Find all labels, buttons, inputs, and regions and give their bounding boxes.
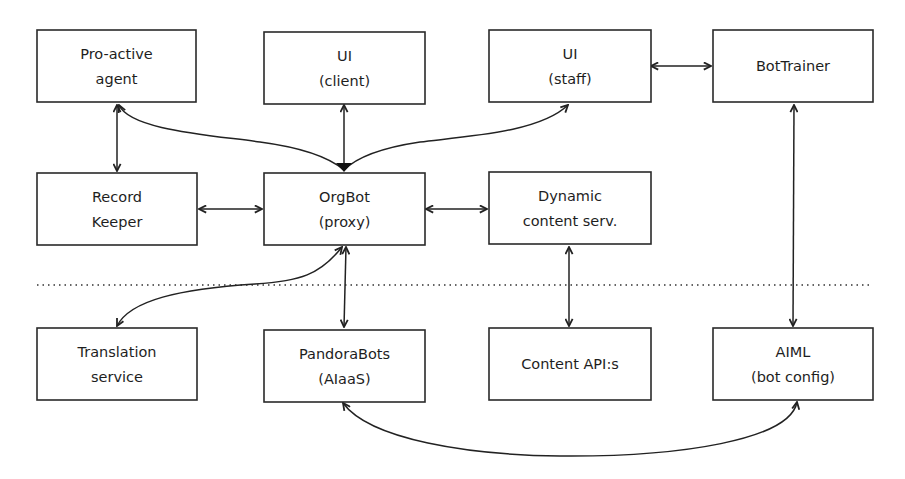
node-label: content serv. [523,213,618,229]
node-label: Keeper [92,214,143,230]
node-aiml: AIML(bot config) [713,328,873,400]
edge-proactive-orgbot [119,105,344,170]
node-label: Translation [76,344,156,360]
node-label: BotTrainer [756,58,830,74]
orgbot-top-junction-arrowhead [336,163,352,172]
architecture-diagram: Pro-activeagentUI(client)UI(staff)BotTra… [0,0,905,479]
node-box [713,328,873,400]
node-ui-staff: UI(staff) [489,30,651,102]
node-label: UI [563,46,578,62]
node-box [264,32,425,104]
node-label: Content API:s [521,356,619,372]
node-label: Dynamic [538,188,602,204]
node-orgbot: OrgBot(proxy) [264,173,425,245]
node-label: (staff) [548,71,591,87]
node-label: Record [92,189,142,205]
node-label: (bot config) [751,369,835,385]
edges [117,66,797,456]
edge-pandorabots-aiml [343,402,797,456]
node-bottrainer: BotTrainer [713,30,873,102]
node-recordkeeper: RecordKeeper [37,173,197,245]
node-label: agent [96,71,138,87]
node-contentapi: Content API:s [489,328,651,400]
node-box [37,173,197,245]
node-box [264,330,425,402]
node-label: service [91,369,143,385]
node-box [37,30,196,102]
node-label: UI [337,48,352,64]
node-label: AIML [776,344,811,360]
node-label: (AIaaS) [318,371,371,387]
node-proactive: Pro-activeagent [37,30,196,102]
edge-orgbot-pandorabots [344,247,346,327]
node-translation: Translationservice [37,328,197,400]
node-label: (client) [319,73,370,89]
edge-ui-staff-orgbot [344,105,568,170]
node-label: (proxy) [319,214,371,230]
node-label: PandoraBots [299,346,390,362]
node-box [489,172,651,244]
node-dynamic: Dynamiccontent serv. [489,172,651,244]
node-box [37,328,197,400]
node-ui-client: UI(client) [264,32,425,104]
node-pandorabots: PandoraBots(AIaaS) [264,330,425,402]
node-box [264,173,425,245]
edge-bottrainer-aiml [793,105,794,326]
node-label: OrgBot [319,189,370,205]
edge-orgbot-translation [117,247,342,326]
node-box [489,30,651,102]
node-label: Pro-active [80,46,153,62]
nodes: Pro-activeagentUI(client)UI(staff)BotTra… [37,30,873,402]
